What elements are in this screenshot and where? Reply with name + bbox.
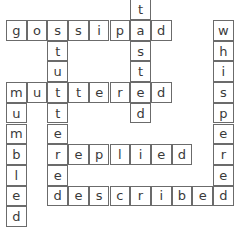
crossword-cell[interactable]: r — [47, 144, 68, 165]
crossword-cell[interactable]: p — [89, 144, 110, 165]
crossword-cell[interactable]: l — [110, 144, 131, 165]
crossword-cell[interactable]: c — [110, 186, 131, 207]
crossword-cell[interactable]: i — [130, 144, 151, 165]
crossword-cell[interactable]: d — [130, 103, 151, 124]
crossword-cell[interactable]: a — [130, 20, 151, 41]
crossword-cell[interactable]: b — [6, 144, 27, 165]
crossword-cell[interactable]: s — [213, 82, 234, 103]
crossword-cell[interactable]: s — [47, 20, 68, 41]
crossword-cell[interactable]: r — [110, 82, 131, 103]
crossword-cell[interactable]: h — [213, 41, 234, 62]
crossword-cell[interactable]: d — [151, 20, 172, 41]
crossword-cell[interactable]: t — [130, 61, 151, 82]
crossword-cell[interactable]: i — [89, 20, 110, 41]
crossword-cell[interactable]: g — [6, 20, 27, 41]
crossword-cell[interactable]: e — [6, 186, 27, 207]
crossword-cell[interactable]: p — [110, 20, 131, 41]
crossword-cell[interactable]: t — [47, 41, 68, 62]
crossword-cell[interactable]: r — [130, 186, 151, 207]
crossword-grid: gossipadtstedtutteredwhisperedmuterdumbl… — [0, 0, 234, 238]
crossword-cell[interactable]: e — [47, 124, 68, 145]
crossword-cell[interactable]: s — [68, 20, 89, 41]
crossword-cell[interactable]: e — [47, 165, 68, 186]
crossword-cell[interactable]: u — [47, 61, 68, 82]
crossword-cell[interactable]: m — [6, 124, 27, 145]
crossword-cell[interactable]: r — [213, 144, 234, 165]
crossword-cell[interactable]: d — [47, 186, 68, 207]
crossword-cell[interactable]: e — [68, 144, 89, 165]
crossword-cell[interactable]: t — [47, 103, 68, 124]
crossword-cell[interactable]: o — [27, 20, 48, 41]
crossword-cell[interactable]: t — [130, 0, 151, 20]
crossword-cell[interactable]: d — [151, 82, 172, 103]
crossword-cell[interactable]: e — [213, 165, 234, 186]
crossword-cell[interactable]: i — [151, 186, 172, 207]
crossword-cell[interactable]: m — [6, 82, 27, 103]
crossword-cell[interactable]: e — [192, 186, 213, 207]
crossword-cell[interactable]: d — [213, 186, 234, 207]
crossword-cell[interactable]: t — [47, 82, 68, 103]
crossword-cell[interactable]: b — [172, 186, 193, 207]
crossword-cell[interactable]: t — [68, 82, 89, 103]
crossword-cell[interactable]: p — [213, 103, 234, 124]
crossword-cell[interactable]: l — [6, 165, 27, 186]
crossword-cell[interactable]: e — [89, 82, 110, 103]
crossword-cell[interactable]: d — [6, 206, 27, 227]
crossword-cell[interactable]: s — [89, 186, 110, 207]
crossword-cell[interactable]: u — [27, 82, 48, 103]
crossword-cell[interactable]: i — [213, 61, 234, 82]
crossword-cell[interactable]: s — [130, 41, 151, 62]
crossword-cell[interactable]: e — [151, 144, 172, 165]
crossword-cell[interactable]: u — [6, 103, 27, 124]
crossword-cell[interactable]: e — [130, 82, 151, 103]
crossword-cell[interactable]: e — [68, 186, 89, 207]
crossword-cell[interactable]: d — [172, 144, 193, 165]
crossword-cell[interactable]: w — [213, 20, 234, 41]
crossword-cell[interactable]: e — [213, 124, 234, 145]
